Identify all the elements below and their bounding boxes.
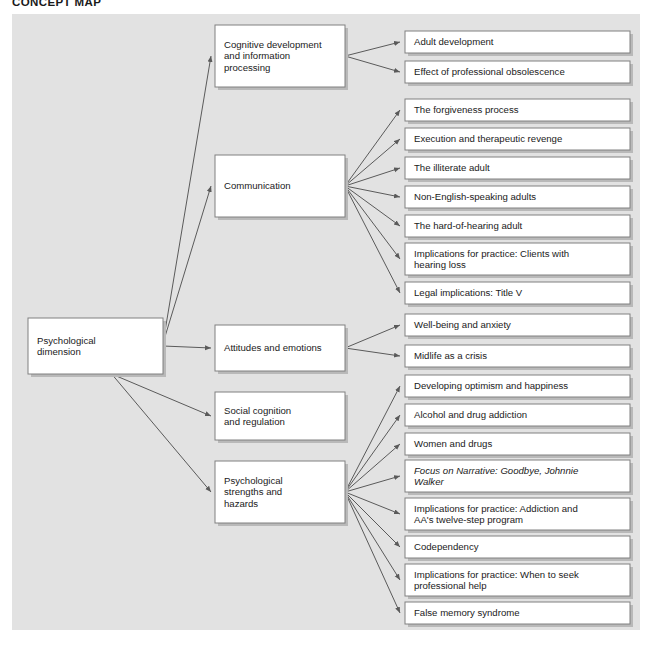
node-label-line: dimension bbox=[37, 346, 81, 357]
node-midlife-crisis[interactable]: Midlife as a crisis bbox=[405, 345, 633, 370]
node-label-line: Midlife as a crisis bbox=[414, 350, 487, 361]
node-illiterate-adult[interactable]: The illiterate adult bbox=[405, 157, 633, 182]
node-label-line: Women and drugs bbox=[414, 438, 492, 449]
connector-communication-to-legal-implications-title-v bbox=[345, 186, 400, 293]
node-label-line: Non-English-speaking adults bbox=[414, 191, 536, 202]
node-label-line: The illiterate adult bbox=[414, 162, 490, 173]
connector-psychological-strengths-to-codependency bbox=[345, 492, 400, 547]
node-label-line: Communication bbox=[224, 180, 291, 191]
node-social-cognition[interactable]: Social cognitionand regulation bbox=[215, 392, 348, 443]
node-legal-implications-title-v[interactable]: Legal implications: Title V bbox=[405, 282, 633, 307]
node-label-line: professional help bbox=[414, 580, 487, 591]
node-label-line: processing bbox=[224, 62, 270, 73]
node-attitudes-emotions[interactable]: Attitudes and emotions bbox=[215, 325, 348, 374]
connector-psychological-strengths-to-alcohol-drug-addiction bbox=[345, 415, 400, 492]
node-label-line: and information bbox=[224, 50, 290, 61]
node-forgiveness-process[interactable]: The forgiveness process bbox=[405, 99, 633, 124]
node-implications-professional-help[interactable]: Implications for practice: When to seek … bbox=[405, 564, 633, 599]
connector-root-to-attitudes-emotions bbox=[163, 346, 211, 348]
node-false-memory-syndrome[interactable]: False memory syndrome bbox=[405, 602, 633, 627]
node-label-line: Adult development bbox=[414, 36, 494, 47]
node-label-line: The forgiveness process bbox=[414, 104, 519, 115]
connector-root-to-psychological-strengths bbox=[112, 374, 211, 492]
node-label-line: Psychological bbox=[37, 335, 96, 346]
node-label-line: The hard-of-hearing adult bbox=[414, 220, 523, 231]
node-implications-aa-twelve-step[interactable]: Implications for practice: Addiction and… bbox=[405, 498, 633, 533]
connector-communication-to-forgiveness-process bbox=[345, 110, 400, 186]
node-label-line: Psychological bbox=[224, 475, 283, 486]
node-psychological-strengths[interactable]: Psychologicalstrengths andhazards bbox=[215, 461, 348, 526]
connector-communication-to-execution-therapeutic-revenge bbox=[345, 139, 400, 186]
node-execution-therapeutic-revenge[interactable]: Execution and therapeutic revenge bbox=[405, 128, 633, 153]
node-label-line: Execution and therapeutic revenge bbox=[414, 133, 562, 144]
node-label-line: strengths and bbox=[224, 486, 282, 497]
node-label-line: AA's twelve-step program bbox=[414, 514, 523, 525]
node-non-english-speaking-adults[interactable]: Non-English-speaking adults bbox=[405, 186, 633, 211]
node-label-line: Codependency bbox=[414, 541, 479, 552]
node-developing-optimism[interactable]: Developing optimism and happiness bbox=[405, 375, 633, 400]
node-label-line: Implications for practice: When to seek bbox=[414, 569, 579, 580]
connector-communication-to-implications-hearing-loss bbox=[345, 186, 400, 259]
connector-communication-to-illiterate-adult bbox=[345, 168, 400, 186]
connector-psychological-strengths-to-women-and-drugs bbox=[345, 444, 400, 492]
node-label-line: Legal implications: Title V bbox=[414, 287, 523, 298]
node-layer: PsychologicaldimensionCognitive developm… bbox=[28, 25, 633, 627]
connector-attitudes-emotions-to-well-being-anxiety bbox=[345, 325, 400, 348]
node-label-line: Attitudes and emotions bbox=[224, 342, 322, 353]
node-label-line: Effect of professional obsolescence bbox=[414, 66, 565, 77]
node-professional-obsolescence[interactable]: Effect of professional obsolescence bbox=[405, 61, 633, 86]
connector-cognitive-development-to-professional-obsolescence bbox=[345, 56, 400, 72]
connector-attitudes-emotions-to-midlife-crisis bbox=[345, 348, 400, 356]
node-cognitive-development[interactable]: Cognitive developmentand informationproc… bbox=[215, 25, 348, 90]
node-women-and-drugs[interactable]: Women and drugs bbox=[405, 433, 633, 458]
node-label-line: hazards bbox=[224, 498, 258, 509]
connector-root-to-social-cognition bbox=[112, 374, 211, 416]
node-adult-development[interactable]: Adult development bbox=[405, 31, 633, 56]
node-root[interactable]: Psychologicaldimension bbox=[28, 318, 166, 377]
connector-cognitive-development-to-adult-development bbox=[345, 42, 400, 56]
node-communication[interactable]: Communication bbox=[215, 155, 348, 220]
connector-psychological-strengths-to-false-memory-syndrome bbox=[345, 492, 400, 613]
node-focus-on-narrative[interactable]: Focus on Narrative: Goodbye, Johnnie Wal… bbox=[405, 460, 633, 495]
node-label-line: Developing optimism and happiness bbox=[414, 380, 568, 391]
node-label-line: Focus on Narrative: Goodbye, Johnnie bbox=[414, 465, 578, 476]
connector-psychological-strengths-to-implications-professional-help bbox=[345, 492, 400, 580]
connector-root-to-cognitive-development bbox=[163, 56, 211, 343]
node-label-line: and regulation bbox=[224, 416, 285, 427]
node-codependency[interactable]: Codependency bbox=[405, 536, 633, 561]
node-label-line: Implications for practice: Clients with bbox=[414, 248, 569, 259]
node-label-line: Implications for practice: Addiction and bbox=[414, 503, 578, 514]
node-implications-hearing-loss[interactable]: Implications for practice: Clients with … bbox=[405, 243, 633, 278]
connector-psychological-strengths-to-focus-on-narrative bbox=[345, 476, 400, 492]
node-label-line: Social cognition bbox=[224, 405, 291, 416]
node-label-line: Cognitive development bbox=[224, 39, 322, 50]
node-hard-of-hearing-adult[interactable]: The hard-of-hearing adult bbox=[405, 215, 633, 240]
connector-root-to-communication bbox=[163, 186, 211, 343]
concept-map-diagram: PsychologicaldimensionCognitive developm… bbox=[0, 0, 650, 647]
node-label-line: Well-being and anxiety bbox=[414, 319, 511, 330]
node-alcohol-drug-addiction[interactable]: Alcohol and drug addiction bbox=[405, 404, 633, 429]
node-label-line: Walker bbox=[414, 476, 444, 487]
node-label-line: hearing loss bbox=[414, 259, 466, 270]
node-label-line: False memory syndrome bbox=[414, 607, 520, 618]
node-well-being-anxiety[interactable]: Well-being and anxiety bbox=[405, 314, 633, 339]
node-label-line: Alcohol and drug addiction bbox=[414, 409, 527, 420]
connector-psychological-strengths-to-developing-optimism bbox=[345, 386, 400, 492]
